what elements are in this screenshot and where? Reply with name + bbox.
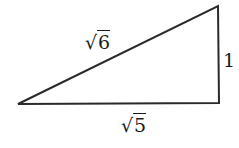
hypotenuse-label: √6 <box>85 33 110 52</box>
base-label: √5 <box>121 116 146 135</box>
base-value: 5 <box>133 113 146 136</box>
sqrt-symbol: √ <box>85 33 97 52</box>
hypotenuse-value: 6 <box>97 30 110 53</box>
triangle-shape <box>18 6 219 104</box>
sqrt-symbol: √ <box>121 116 133 135</box>
triangle-figure <box>0 0 239 148</box>
vertical-side-label: 1 <box>223 51 235 70</box>
